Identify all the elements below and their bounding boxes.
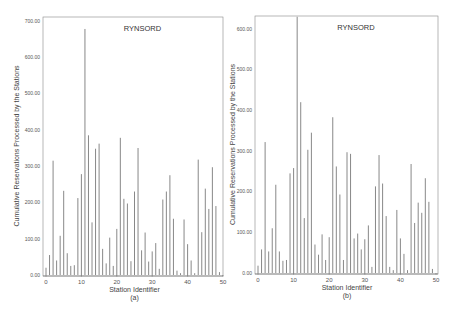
bar-chart-a: RYNSORD0.00100.00200.00300.00400.00500.0… (0, 0, 228, 314)
y-tick-label: 400.00 (25, 127, 41, 133)
panel-label: (a) (130, 294, 139, 302)
y-axis-label: Cumulative Reservations Processed by the… (229, 63, 237, 225)
x-axis-label: Station Identifier (109, 286, 160, 293)
y-axis-label: Cumulative Reservations Processed by the… (13, 65, 21, 227)
panel-label: (b) (343, 292, 352, 300)
plot-frame (43, 17, 223, 276)
y-tick-label: 0.00 (242, 270, 252, 276)
chart-title: RYNSORD (124, 24, 162, 33)
chart-title: RYNSORD (337, 23, 375, 32)
plot-frame (255, 16, 438, 274)
y-tick-label: 600.00 (25, 54, 41, 60)
x-tick-label: 40 (397, 277, 404, 283)
y-tick-label: 600.00 (237, 26, 253, 32)
y-tick-label: 400.00 (237, 107, 253, 113)
y-tick-label: 300.00 (25, 163, 41, 169)
y-tick-label: 500.00 (237, 66, 253, 72)
x-tick-label: 0 (256, 277, 260, 283)
x-tick-label: 20 (113, 279, 120, 285)
x-tick-label: 10 (78, 279, 85, 285)
x-tick-label: 10 (290, 277, 297, 283)
y-tick-label: 100.00 (237, 229, 253, 235)
x-axis-label: Station Identifier (322, 284, 373, 291)
y-tick-label: 200.00 (237, 188, 253, 194)
chart-panel-b: RYNSORD0.00100.00200.00300.00400.00500.0… (226, 0, 455, 314)
x-tick-label: 20 (326, 277, 333, 283)
y-tick-label: 500.00 (25, 90, 41, 96)
y-tick-label: 200.00 (25, 199, 41, 205)
y-tick-label: 0.00 (30, 272, 40, 278)
x-tick-label: 30 (149, 279, 156, 285)
y-tick-label: 300.00 (237, 148, 253, 154)
x-tick-label: 40 (184, 279, 191, 285)
chart-panel-a: RYNSORD0.00100.00200.00300.00400.00500.0… (0, 0, 228, 314)
x-tick-label: 0 (44, 279, 48, 285)
y-tick-label: 700.00 (25, 18, 41, 24)
y-tick-label: 100.00 (25, 236, 41, 242)
x-tick-label: 50 (433, 277, 440, 283)
bar-chart-b: RYNSORD0.00100.00200.00300.00400.00500.0… (226, 0, 455, 314)
x-tick-label: 30 (361, 277, 368, 283)
